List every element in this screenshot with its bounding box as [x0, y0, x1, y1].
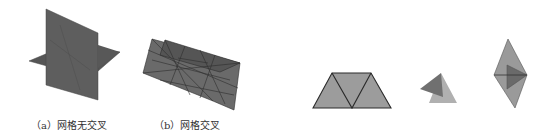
figure-a-planes — [29, 9, 120, 100]
figure-d-triangles — [420, 73, 457, 103]
figure-b-mesh — [143, 39, 240, 110]
figure-c-trapezoid — [313, 73, 391, 108]
figure-e-diamond — [494, 39, 527, 108]
caption-a: （a）网格无交叉 — [31, 117, 107, 132]
caption-b: （b）网格交叉 — [154, 117, 220, 132]
